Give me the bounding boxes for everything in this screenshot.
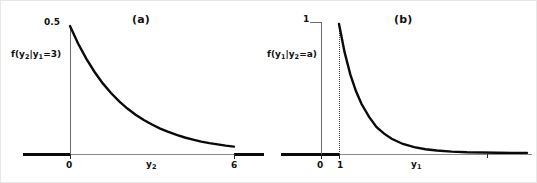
figure-container: (a) f(y2|y1=3) 0.5 0 6 y2 (b) f(y1|y2=a)… bbox=[0, 0, 537, 183]
panel-b-curve bbox=[269, 1, 537, 183]
panel-a: (a) f(y2|y1=3) 0.5 0 6 y2 bbox=[1, 1, 269, 183]
panel-b: (b) f(y1|y2=a) 1 0 1 y1 bbox=[269, 1, 537, 183]
panel-a-curve bbox=[1, 1, 269, 183]
